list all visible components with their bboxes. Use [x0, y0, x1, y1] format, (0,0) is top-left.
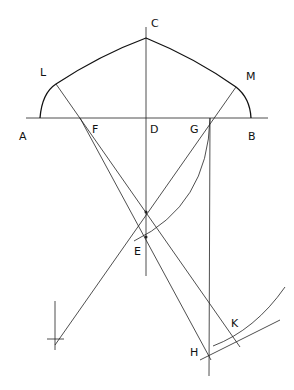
label-b: B	[248, 130, 256, 143]
label-l: L	[40, 66, 47, 79]
vertical-g-h	[209, 118, 210, 376]
arc-k	[213, 287, 285, 346]
label-k: K	[231, 317, 239, 330]
point-e	[145, 236, 148, 239]
label-d: D	[150, 123, 158, 136]
arc-g-e	[134, 118, 210, 241]
label-m: M	[246, 70, 256, 83]
line-h-k	[200, 320, 280, 360]
label-h: H	[190, 346, 198, 359]
label-e: E	[134, 245, 141, 258]
line-f-h	[80, 118, 211, 360]
intersection-point	[145, 211, 148, 214]
label-a: A	[19, 130, 27, 143]
construction-diagram: C L M A F D G B E H K	[0, 0, 294, 390]
line-l-f	[56, 84, 240, 347]
label-c: C	[151, 17, 159, 30]
line-m-g	[55, 87, 236, 345]
label-f: F	[92, 123, 98, 136]
label-g: G	[190, 123, 199, 136]
